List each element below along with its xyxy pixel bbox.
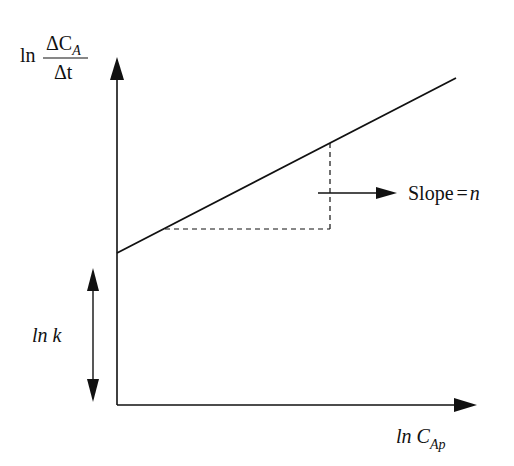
slope-label: Slope=n [408, 182, 480, 205]
up-arrowhead-icon [87, 268, 99, 291]
y-axis [110, 57, 124, 405]
y-axis-label: ln ΔCA Δt [20, 32, 88, 83]
intercept-label: ln k [32, 324, 63, 346]
intercept-indicator [87, 268, 99, 402]
down-arrowhead-icon [87, 379, 99, 402]
diagram-canvas: Slope=n ln k ln ΔCA Δt ln CAp [0, 0, 514, 466]
y-axis-arrowhead-icon [110, 57, 124, 80]
svg-text:ln: ln [20, 44, 36, 66]
rate-line [117, 78, 456, 253]
svg-text:ΔCA: ΔCA [46, 32, 81, 58]
rate-plot-diagram: Slope=n ln k ln ΔCA Δt ln CAp [0, 0, 514, 466]
svg-text:Δt: Δt [54, 61, 73, 83]
x-axis [117, 398, 477, 412]
x-axis-arrowhead-icon [454, 398, 477, 412]
x-axis-label: ln CAp [396, 425, 445, 452]
slope-arrowhead-icon [376, 187, 397, 199]
